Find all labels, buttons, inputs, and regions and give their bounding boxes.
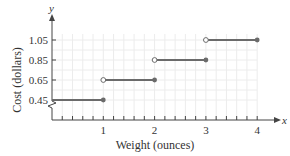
closed-endpoint [152,78,157,83]
open-endpoint [152,58,157,63]
open-endpoint [101,78,106,83]
closed-endpoint [255,38,260,43]
x-axis-title: Weight (ounces) [116,138,195,152]
y-tick-label: 0.65 [29,74,49,86]
x-tick-label: 3 [203,124,209,136]
step-function-chart: 12340.450.650.851.05 Weight (ounces) Cos… [0,0,290,156]
closed-endpoint [204,58,209,63]
x-tick-label: 1 [101,124,107,136]
y-tick-label: 0.85 [29,54,49,66]
closed-endpoint [101,98,106,103]
x-tick-label: 2 [152,124,158,136]
y-axis-title: Cost (dollars) [10,47,24,113]
y-tick-label: 0.45 [29,94,49,106]
x-axis-variable: x [281,114,287,126]
y-tick-label: 1.05 [29,34,49,46]
open-endpoint [204,38,209,43]
grid-lines [52,34,257,120]
y-axis-variable: y [48,2,54,14]
x-tick-label: 4 [254,124,260,136]
